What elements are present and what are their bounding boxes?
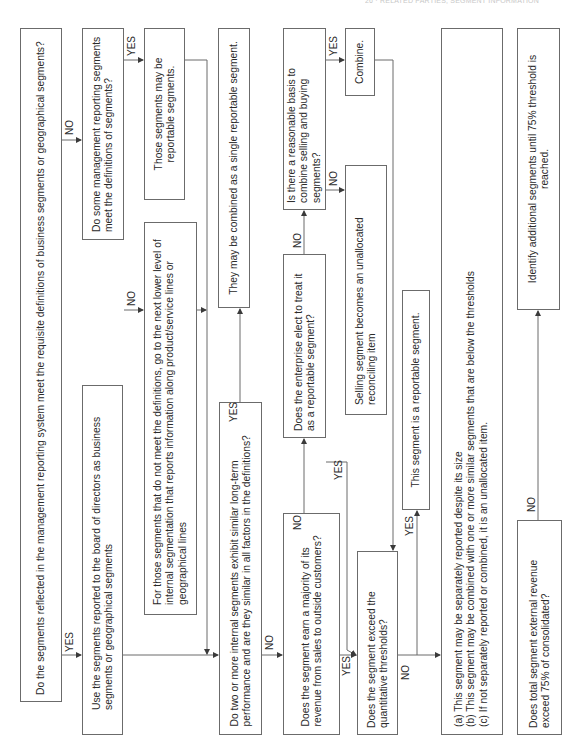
edge-label-no: NO [126,291,137,306]
decision-total-75-percent: Does total segment external revenue exce… [517,520,562,735]
edge-label-yes: YES [333,460,344,480]
result-those-reportable: Those segments may be reportable segment… [144,28,185,200]
node-text: For those segments that do not meet the … [152,233,189,605]
decision-reasonable-basis: Is there a reasonable basis to combine s… [283,28,326,210]
node-text: Does the segment exceed the quantitative… [365,558,390,728]
node-text: Use the segments reported to the board o… [90,410,115,710]
edge-label-yes: YES [126,36,137,56]
node-text: Identify additional segments until 75% t… [526,34,551,304]
node-text: This segment is a reportable segment. [410,295,422,505]
decision-majority-revenue: Does the segment earn a majority of its … [283,513,340,735]
result-combined-single: They may be combined as a single reporta… [218,28,250,308]
decision-two-or-more-similar: Do two or more internal segments exhibit… [219,402,262,735]
node-text: Selling segment becomes an unallocated r… [354,175,379,405]
edge-label-yes: YES [328,36,339,56]
result-options-abc: (a) This segment may be separately repor… [441,28,503,735]
edge-label-no: NO [400,665,411,680]
node-text: Do some management reporting segments me… [91,36,116,232]
decision-exceed-thresholds: Does the segment exceed the quantitative… [357,551,398,735]
edge-label-no: NO [292,233,303,248]
option-b: (b) This segment may be combined with on… [466,37,478,727]
node-text: Does total segment external revenue exce… [527,528,552,728]
edge-label-no: NO [328,171,339,186]
decision-some-mgmt-segments-meet: Do some management reporting segments me… [82,28,124,240]
options-list: (a) This segment may be separately repor… [453,37,490,727]
process-use-board-segments: Use the segments reported to the board o… [82,385,123,735]
node-text: Do two or more internal segments exhibit… [228,411,253,726]
option-c: (c) If not separately reported or combin… [478,37,490,727]
node-text: Does the enterprise elect to treat it as… [292,261,317,431]
node-text: Those segments may be reportable segment… [152,39,177,189]
option-a: (a) This segment may be separately repor… [453,37,465,727]
result-is-reportable: This segment is a reportable segment. [402,290,430,510]
edge-label-yes: YES [64,632,75,652]
decision-mgmt-system-meets-definitions: Do the segments reflected in the managem… [20,28,62,702]
result-selling-unallocated: Selling segment becomes an unallocated r… [345,165,387,415]
edge-label-no: NO [64,120,75,135]
result-combine: Combine. [345,28,375,96]
edge-label-no: NO [526,497,537,512]
node-text: Is there a reasonable basis to combine s… [286,35,323,203]
edge-label-yes: YES [341,656,352,676]
edge-label-yes: YES [404,516,415,536]
edge-label-yes: YES [228,402,239,422]
result-identify-additional: Identify additional segments until 75% t… [517,28,560,310]
edge-label-no: NO [264,635,275,650]
node-text: Combine. [354,32,366,92]
node-text: Do the segments reflected in the managem… [35,35,47,695]
node-text: Does the segment earn a majority of its … [299,522,324,727]
node-text: They may be combined as a single reporta… [228,33,240,303]
decision-enterprise-elect: Does the enterprise elect to treat it as… [283,254,326,438]
process-next-lower-level: For those segments that do not meet the … [144,222,197,615]
edge-label-no: NO [292,515,303,530]
